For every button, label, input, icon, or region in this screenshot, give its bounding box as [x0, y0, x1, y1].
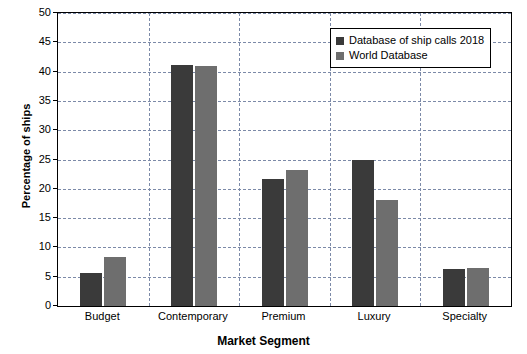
bar [195, 66, 217, 306]
x-tick-label: Contemporary [158, 310, 228, 322]
y-tick-label: 20 [27, 182, 51, 194]
bar [104, 257, 126, 306]
y-tick-mark [53, 41, 57, 42]
x-tick-label: Premium [261, 310, 305, 322]
bar-chart: Percentage of ships Market Segment 05101… [0, 0, 527, 354]
gridline-horizontal [58, 72, 511, 73]
bar [467, 268, 489, 306]
y-tick-label: 10 [27, 240, 51, 252]
legend-label: Database of ship calls 2018 [349, 33, 484, 48]
y-tick-label: 5 [27, 270, 51, 282]
y-tick-mark [53, 100, 57, 101]
y-tick-label: 30 [27, 123, 51, 135]
legend-item: Database of ship calls 2018 [336, 33, 484, 48]
x-tick-label: Luxury [358, 310, 391, 322]
bar [80, 273, 102, 306]
gridline-horizontal [58, 13, 511, 14]
bar [443, 269, 465, 306]
bar [286, 170, 308, 306]
gridline-horizontal [58, 101, 511, 102]
y-tick-label: 40 [27, 65, 51, 77]
gridline-horizontal [58, 160, 511, 161]
y-tick-mark [53, 246, 57, 247]
bar [376, 200, 398, 306]
y-tick-label: 45 [27, 35, 51, 47]
chart-legend: Database of ship calls 2018 World Databa… [330, 28, 491, 68]
y-tick-mark [53, 276, 57, 277]
y-tick-mark [53, 305, 57, 306]
legend-label: World Database [349, 48, 428, 63]
bar [352, 160, 374, 306]
y-tick-mark [53, 71, 57, 72]
y-tick-mark [53, 217, 57, 218]
gridline-horizontal [58, 130, 511, 131]
legend-item: World Database [336, 48, 484, 63]
y-tick-label: 25 [27, 153, 51, 165]
y-tick-mark [53, 129, 57, 130]
x-axis-title: Market Segment [0, 334, 527, 348]
y-tick-label: 50 [27, 6, 51, 18]
x-tick-label: Specialty [442, 310, 487, 322]
y-tick-label: 35 [27, 94, 51, 106]
gridline-horizontal [58, 189, 511, 190]
legend-swatch-icon [336, 52, 344, 60]
bar [262, 179, 284, 306]
gridline-horizontal [58, 247, 511, 248]
y-tick-label: 15 [27, 211, 51, 223]
gridline-vertical [239, 13, 240, 306]
gridline-vertical [149, 13, 150, 306]
legend-swatch-icon [336, 37, 344, 45]
x-tick-label: Budget [85, 310, 120, 322]
y-tick-label: 0 [27, 299, 51, 311]
y-tick-mark [53, 159, 57, 160]
gridline-horizontal [58, 218, 511, 219]
bar [171, 65, 193, 306]
y-tick-mark [53, 188, 57, 189]
y-tick-mark [53, 12, 57, 13]
